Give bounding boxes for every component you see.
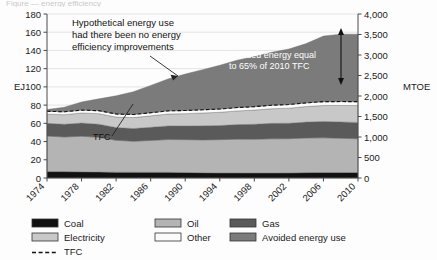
legend-item-other-label: Other — [187, 232, 211, 243]
legend-item-gas-label: Gas — [262, 218, 280, 229]
y2-tick-label: 4,000 — [364, 9, 388, 20]
x-tick-label: 1974 — [24, 181, 47, 204]
energy-stacked-area-chart: 020406080100120140160180EJ05001,0001,500… — [0, 0, 437, 260]
legend-item-oil-label: Oil — [187, 218, 199, 229]
x-tick-label: 2002 — [266, 181, 289, 204]
y-axis-title: EJ — [14, 81, 25, 92]
y-tick-label: 120 — [25, 63, 41, 74]
x-tick-label: 1998 — [231, 181, 254, 204]
legend-item-coal-label: Coal — [64, 218, 84, 229]
annotation-tfc-label: TFC — [93, 132, 111, 142]
y-tick-label: 180 — [25, 9, 41, 20]
x-tick-label: 2010 — [335, 181, 358, 204]
legend-item-tfc-label: TFC — [64, 246, 83, 257]
y-tick-label: 80 — [30, 100, 41, 111]
y-tick-label: 100 — [25, 81, 41, 92]
y2-tick-label: 1,000 — [364, 132, 388, 143]
avoided-arrow-head-top — [338, 28, 344, 35]
annotation-avoided-line: Avoided energy equal — [229, 50, 316, 60]
annotation-avoided-line: to 65% of 2010 TFC — [229, 61, 310, 71]
x-tick-label: 1994 — [196, 181, 219, 204]
legend-item-avoided-energy-use-label: Avoided energy use — [262, 232, 346, 243]
annotation-hypothetical-line: Hypothetical energy use — [72, 17, 174, 28]
legend-item-electricity-swatch — [32, 233, 58, 241]
y2-tick-label: 3,500 — [364, 29, 388, 40]
annotation-hypothetical-line: had there been no energy — [72, 29, 181, 40]
annotation-hypothetical-leader — [150, 56, 178, 76]
y2-tick-label: 2,500 — [364, 70, 388, 81]
y2-tick-label: 1,500 — [364, 111, 388, 122]
y2-tick-label: 500 — [364, 152, 380, 163]
legend-item-avoided-energy-use-swatch — [230, 233, 256, 241]
x-tick-label: 1978 — [58, 181, 81, 204]
legend-item-gas-swatch — [230, 219, 256, 227]
legend-item-electricity-label: Electricity — [64, 232, 105, 243]
x-tick-label: 2006 — [300, 181, 323, 204]
x-tick-label: 1990 — [162, 181, 185, 204]
y2-tick-label: 2,000 — [364, 91, 388, 102]
y-tick-label: 140 — [25, 45, 41, 56]
y2-tick-label: 3,000 — [364, 50, 388, 61]
legend-item-oil-swatch — [155, 219, 181, 227]
y-tick-label: 60 — [30, 118, 41, 129]
chart-container: Figure — energy efficiency 0204060801001… — [0, 0, 437, 260]
y-tick-label: 20 — [30, 154, 41, 165]
legend-item-other-swatch — [155, 233, 181, 241]
y2-axis-title: MTOE — [403, 81, 430, 92]
annotation-hypothetical-line: efficiency improvements — [72, 41, 174, 52]
x-tick-label: 1986 — [127, 181, 150, 204]
x-tick-label: 1982 — [93, 181, 116, 204]
legend-item-coal-swatch — [32, 219, 58, 227]
y-tick-label: 40 — [30, 136, 41, 147]
y2-tick-label: 0 — [364, 173, 369, 184]
y-tick-label: 160 — [25, 27, 41, 38]
